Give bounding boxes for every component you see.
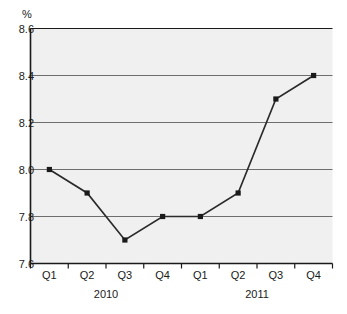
y-axis-tick-label: 8.0 bbox=[0, 164, 34, 176]
data-point-marker bbox=[160, 214, 165, 219]
x-axis-tick-label: Q1 bbox=[193, 269, 208, 281]
y-axis-tick-label: 7.6 bbox=[0, 258, 34, 270]
x-axis-tick-label: Q3 bbox=[118, 269, 133, 281]
y-axis-tick-label: 8.2 bbox=[0, 117, 34, 129]
x-axis-tick-label: Q3 bbox=[269, 269, 284, 281]
line-chart: % 8.68.48.28.07.87.6 Q1Q2Q3Q4Q1Q2Q3Q4 20… bbox=[0, 0, 347, 314]
plot-area bbox=[0, 0, 347, 314]
data-point-marker bbox=[273, 96, 278, 101]
data-point-marker bbox=[198, 214, 203, 219]
data-point-marker bbox=[311, 73, 316, 78]
data-point-marker bbox=[85, 190, 90, 195]
y-axis-tick-label: 8.6 bbox=[0, 23, 34, 35]
x-axis-tick-label: Q1 bbox=[42, 269, 57, 281]
data-point-marker bbox=[47, 167, 52, 172]
y-axis-tick-label: 7.8 bbox=[0, 211, 34, 223]
plot-background bbox=[31, 29, 333, 264]
x-axis-tick-label: Q4 bbox=[155, 269, 170, 281]
x-axis-group-label: 2010 bbox=[94, 288, 118, 300]
x-axis-group-label: 2011 bbox=[245, 288, 269, 300]
x-axis-tick-label: Q2 bbox=[80, 269, 95, 281]
y-axis-tick-label: 8.4 bbox=[0, 70, 34, 82]
data-point-marker bbox=[236, 190, 241, 195]
x-axis-tick-label: Q2 bbox=[231, 269, 246, 281]
x-axis-tick-label: Q4 bbox=[306, 269, 321, 281]
y-axis-unit-label: % bbox=[22, 8, 32, 20]
data-point-marker bbox=[122, 237, 127, 242]
